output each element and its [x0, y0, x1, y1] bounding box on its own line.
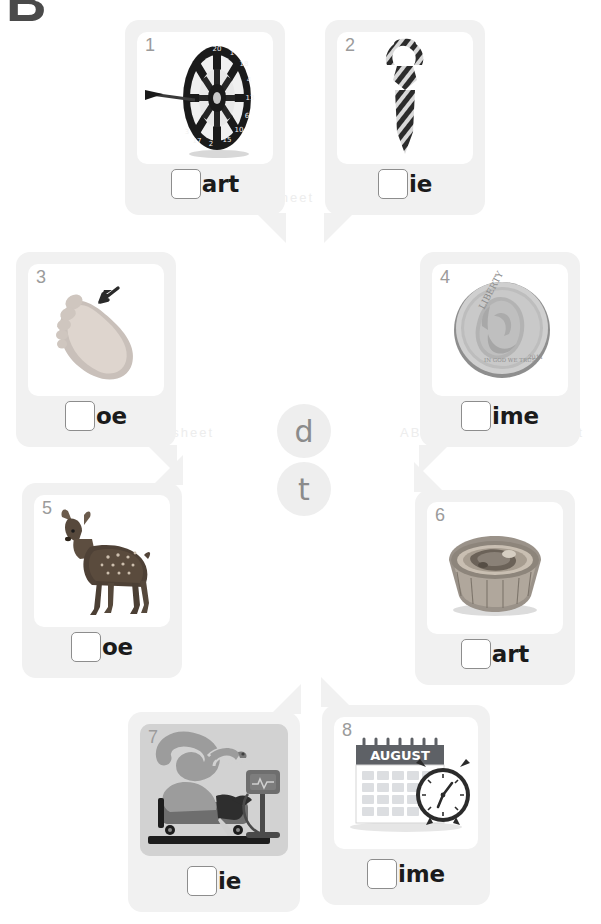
- tart-pastry-icon: [427, 502, 563, 634]
- card-6-ending: art: [492, 641, 529, 667]
- card-5-blank-input[interactable]: [71, 632, 101, 662]
- heading-glyph: B: [6, 0, 46, 30]
- letter-circle-t-label: t: [298, 472, 310, 507]
- card-1-ending: art: [202, 171, 239, 197]
- card-4-blank-input[interactable]: [461, 401, 491, 431]
- dime-coin-icon: LIBERTY IN GOD WE TRUST 2011: [432, 264, 568, 396]
- card-1-answer[interactable]: art: [125, 169, 285, 199]
- svg-text:18: 18: [240, 60, 249, 68]
- card-7-blank-input[interactable]: [187, 866, 217, 896]
- card-8-blank-input[interactable]: [367, 859, 397, 889]
- card-5-answer[interactable]: oe: [22, 632, 182, 662]
- word-card-6[interactable]: 6: [415, 490, 575, 685]
- svg-text:1: 1: [230, 49, 234, 57]
- card-4-tail: [419, 445, 449, 475]
- card-7-number: 7: [148, 727, 158, 749]
- letter-circle-d[interactable]: d: [277, 404, 331, 458]
- card-7-tail: [271, 684, 301, 714]
- svg-text:6: 6: [245, 112, 250, 120]
- svg-text:3: 3: [185, 128, 189, 136]
- card-3-blank-input[interactable]: [65, 401, 95, 431]
- card-2-blank-input[interactable]: [378, 169, 408, 199]
- card-7-picture: 7: [140, 724, 288, 856]
- card-8-ending: ime: [398, 861, 445, 887]
- card-1-number: 1: [145, 35, 155, 57]
- card-6-number: 6: [435, 505, 445, 527]
- card-3-answer[interactable]: oe: [16, 401, 176, 431]
- svg-text:4: 4: [247, 76, 252, 84]
- svg-text:10: 10: [235, 126, 244, 134]
- deer-doe-icon: [34, 495, 170, 627]
- card-4-number: 4: [440, 267, 450, 289]
- card-2-number: 2: [345, 35, 355, 57]
- calendar-clock-icon: AUGUST: [334, 717, 478, 849]
- word-card-1[interactable]: 1 201 184: [125, 20, 285, 215]
- card-1-tail: [256, 213, 286, 243]
- card-5-ending: oe: [102, 634, 133, 660]
- letter-circle-d-label: d: [294, 414, 313, 449]
- card-1-picture: 1 201 184: [137, 32, 273, 164]
- svg-text:17: 17: [193, 137, 202, 145]
- card-3-picture: 3: [28, 264, 164, 396]
- card-7-answer[interactable]: ie: [128, 866, 300, 896]
- card-8-answer[interactable]: ime: [322, 859, 490, 889]
- worksheet-page: B ABC Phonics Worksheet ABC Phonics Work…: [0, 0, 601, 924]
- card-3-ending: oe: [96, 403, 127, 429]
- card-7-ending: ie: [218, 868, 241, 894]
- card-2-tail: [324, 213, 354, 243]
- card-8-tail: [321, 677, 351, 707]
- svg-text:15: 15: [223, 136, 232, 144]
- card-4-picture: 4 LIBERTY IN GOD WE TRUST 2011: [432, 264, 568, 396]
- card-6-picture: 6: [427, 502, 563, 634]
- svg-text:20: 20: [213, 45, 222, 53]
- card-1-blank-input[interactable]: [171, 169, 201, 199]
- card-2-answer[interactable]: ie: [325, 169, 485, 199]
- word-card-7[interactable]: 7: [128, 712, 300, 912]
- card-2-picture: 2: [337, 32, 473, 164]
- word-card-2[interactable]: 2 ie: [325, 20, 485, 215]
- dartboard-icon: 201 184 136 1015 217 3: [137, 32, 273, 164]
- card-4-ending: ime: [492, 403, 539, 429]
- card-2-ending: ie: [409, 171, 432, 197]
- svg-text:2011: 2011: [528, 353, 543, 360]
- card-8-picture: 8 AUGUST: [334, 717, 478, 849]
- word-card-4[interactable]: 4 LIBERTY IN GOD WE TRUST 2011: [420, 252, 580, 447]
- card-5-picture: 5: [34, 495, 170, 627]
- word-card-3[interactable]: 3 oe: [16, 252, 176, 447]
- word-card-5[interactable]: 5: [22, 483, 182, 678]
- foot-toe-icon: [28, 264, 164, 396]
- card-6-tail: [414, 462, 444, 492]
- card-8-number: 8: [342, 720, 352, 742]
- card-4-answer[interactable]: ime: [420, 401, 580, 431]
- card-6-answer[interactable]: art: [415, 639, 575, 669]
- card-6-blank-input[interactable]: [461, 639, 491, 669]
- card-5-number: 5: [42, 498, 52, 520]
- hospital-bed-icon: [140, 724, 288, 856]
- svg-text:13: 13: [246, 94, 255, 102]
- letter-circle-t[interactable]: t: [277, 462, 331, 516]
- word-card-8[interactable]: 8 AUGUST: [322, 705, 490, 905]
- svg-text:2: 2: [209, 140, 213, 148]
- card-3-number: 3: [36, 267, 46, 289]
- necktie-icon: [337, 32, 473, 164]
